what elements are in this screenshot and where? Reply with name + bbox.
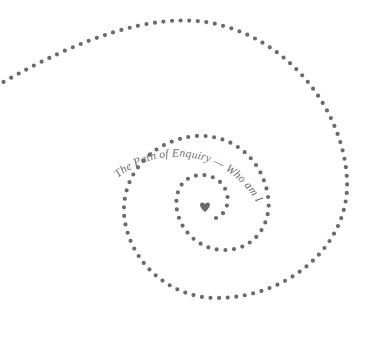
dotted-spiral-path bbox=[0, 20, 347, 298]
heart-icon bbox=[200, 202, 210, 212]
spiral-svg: The Path of Enquiry — Who am I… bbox=[0, 0, 388, 340]
spiral-artwork: The Path of Enquiry — Who am I… bbox=[0, 0, 388, 340]
